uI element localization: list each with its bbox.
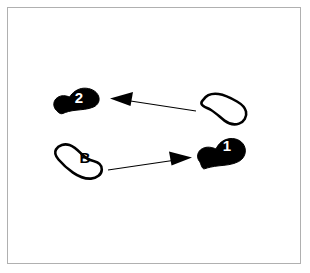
arrow-lower[interactable] bbox=[108, 152, 192, 171]
footprint-label-b: B bbox=[76, 150, 94, 165]
arrow-lower-head bbox=[169, 152, 192, 166]
footprint-shape-start[interactable] bbox=[201, 94, 246, 125]
footwork-diagram-canvas bbox=[0, 0, 310, 273]
arrow-upper-shaft bbox=[124, 100, 196, 111]
arrow-upper[interactable] bbox=[110, 92, 196, 111]
diagram-page: 2 1 B bbox=[0, 0, 310, 273]
footprint-label-1: 1 bbox=[218, 138, 236, 153]
arrow-lower-shaft bbox=[108, 160, 176, 170]
arrow-upper-head bbox=[110, 92, 133, 106]
footprint-label-2: 2 bbox=[70, 90, 88, 105]
